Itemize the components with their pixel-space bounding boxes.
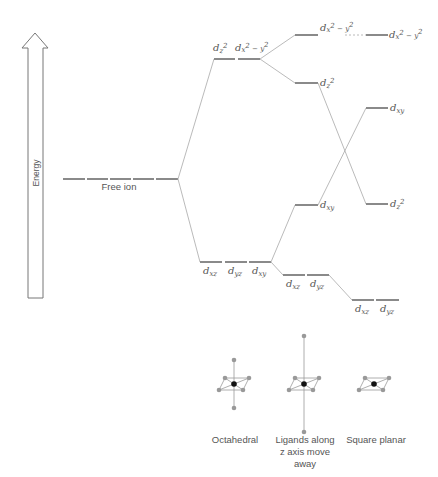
sp-dx2y2-label: dx2 − y2 [389, 28, 423, 41]
octahedral-eg-levels: dz2 dx2 − y2 [213, 41, 269, 59]
square-planar-levels: dx2 − y2 dxy dz2 dxz dyz [352, 28, 423, 316]
oct-dxy-label: dxy [252, 265, 267, 278]
square-planar-geometry-icon [357, 376, 392, 393]
caption-square-planar: Square planar [346, 434, 406, 445]
tet-dyz-label: dyz [310, 278, 324, 291]
oct-dyz-label: dyz [228, 265, 242, 278]
free-ion-levels: Free ion [63, 179, 178, 192]
oct-dxz-label: dxz [203, 265, 217, 278]
tet-dxz-label: dxz [286, 278, 300, 291]
tet-dz2-label: dz2 [320, 77, 335, 90]
caption-ligands-line3: away [294, 458, 316, 469]
tetragonal-geometry-icon [287, 334, 322, 435]
tet-dx2y2-label: dx2 − y2 [320, 21, 354, 34]
sp-dz2-label: dz2 [390, 198, 405, 211]
free-ion-label: Free ion [102, 181, 137, 192]
caption-octahedral: Octahedral [212, 434, 258, 445]
octahedral-t2g-levels: dxz dyz dxy [200, 262, 271, 278]
energy-arrow: Energy [22, 33, 48, 298]
sp-dxy-label: dxy [390, 102, 405, 115]
energy-axis-label: Energy [31, 159, 41, 187]
oct-dz2-label: dz2 [213, 42, 228, 55]
caption-ligands-line2: z axis move [280, 446, 330, 457]
tet-dxy-label: dxy [320, 199, 335, 212]
sp-dxz-label: dxz [355, 303, 369, 316]
octahedral-geometry-icon [217, 358, 252, 411]
crystal-field-splitting-diagram: Energy Free ion dz2 dx2 − y2 dxz dyz dxy… [0, 0, 438, 477]
sp-dyz-label: dyz [380, 303, 394, 316]
caption-ligands-line1: Ligands along [275, 434, 334, 445]
tetragonal-levels: dx2 − y2 dz2 dxy dxz dyz [283, 21, 354, 291]
oct-dx2y2-label: dx2 − y2 [235, 41, 269, 54]
